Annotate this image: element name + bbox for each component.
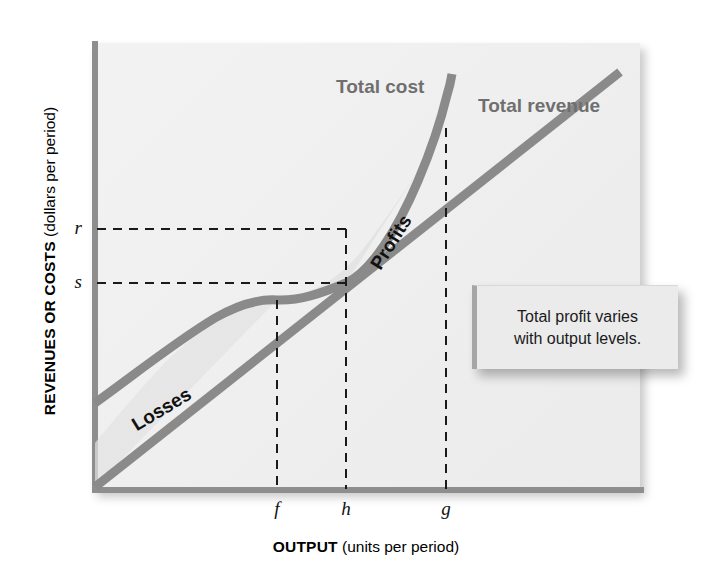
x-tick-label-f: f xyxy=(266,498,288,520)
y-tick-label-s: s xyxy=(60,271,82,293)
x-tick-label-g: g xyxy=(435,498,457,520)
economics-figure: REVENUES OR COSTS (dollars per period) O… xyxy=(0,0,721,569)
y-axis-title: REVENUES OR COSTS (dollars per period) xyxy=(41,61,59,461)
callout-text: Total profit varies with output levels. xyxy=(506,306,649,348)
x-axis-title-units: (units per period) xyxy=(338,538,459,555)
callout-line-1: Total profit varies xyxy=(517,308,638,325)
callout-line-2: with output levels. xyxy=(514,330,641,347)
total-cost-label: Total cost xyxy=(336,76,424,98)
y-axis-title-units: (dollars per period) xyxy=(41,107,58,241)
y-axis-line xyxy=(92,41,98,493)
x-axis-line xyxy=(92,487,644,493)
callout-box: Total profit varies with output levels. xyxy=(472,285,678,369)
total-revenue-label: Total revenue xyxy=(478,95,600,117)
x-tick-label-h: h xyxy=(335,498,357,520)
x-axis-title: OUTPUT (units per period) xyxy=(92,538,640,556)
y-tick-label-r: r xyxy=(60,217,82,239)
x-axis-title-main: OUTPUT xyxy=(273,538,338,555)
y-axis-title-main: REVENUES OR COSTS xyxy=(41,241,58,415)
